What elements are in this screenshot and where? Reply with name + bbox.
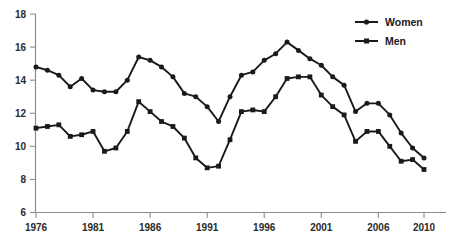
data-point <box>79 76 84 81</box>
data-point <box>319 63 324 68</box>
data-point <box>56 122 61 127</box>
data-point <box>79 132 84 137</box>
data-point <box>125 78 130 83</box>
data-point <box>159 64 164 69</box>
x-axis-tick-labels: 19761981198619911996200120062010 <box>25 222 436 233</box>
data-point <box>205 104 210 109</box>
x-tick-label: 2010 <box>413 222 436 233</box>
data-point <box>216 164 221 169</box>
data-point <box>193 94 198 99</box>
data-point <box>193 156 198 161</box>
x-tick-label: 1996 <box>253 222 276 233</box>
y-tick-label: 6 <box>20 207 26 218</box>
data-point <box>34 126 39 131</box>
y-tick-label: 12 <box>15 108 27 119</box>
y-axis-tick-labels: 681012141618 <box>15 9 27 219</box>
data-point <box>330 104 335 109</box>
chart-series-layer <box>34 40 427 172</box>
data-point <box>410 145 415 150</box>
data-point <box>376 129 381 134</box>
legend-label: Women <box>385 16 423 28</box>
data-point <box>410 157 415 162</box>
data-point <box>262 109 267 114</box>
data-point <box>228 137 233 142</box>
data-point <box>342 83 347 88</box>
legend-item-men: Men <box>355 35 406 47</box>
data-point <box>353 139 358 144</box>
legend-marker-square-icon <box>364 39 369 44</box>
data-point <box>45 124 50 129</box>
data-point <box>102 149 107 154</box>
data-point <box>136 99 141 104</box>
data-point <box>422 167 427 172</box>
y-axis-ticks <box>30 14 36 213</box>
data-point <box>91 129 96 134</box>
data-point <box>422 155 427 160</box>
data-point <box>239 73 244 78</box>
data-point <box>216 119 221 124</box>
data-point <box>296 74 301 79</box>
data-point <box>34 64 39 69</box>
data-point <box>273 94 278 99</box>
series-women <box>34 40 427 161</box>
data-point <box>205 165 210 170</box>
data-point <box>125 129 130 134</box>
x-tick-label: 2006 <box>367 222 390 233</box>
data-point <box>330 74 335 79</box>
x-tick-label: 1991 <box>196 222 219 233</box>
data-point <box>365 129 370 134</box>
x-tick-label: 1976 <box>25 222 48 233</box>
y-tick-label: 14 <box>15 75 27 86</box>
data-point <box>399 159 404 164</box>
data-point <box>68 134 73 139</box>
data-point <box>285 76 290 81</box>
data-point <box>45 68 50 73</box>
data-point <box>148 58 153 63</box>
y-tick-label: 18 <box>15 9 27 20</box>
data-point <box>250 108 255 113</box>
data-point <box>239 109 244 114</box>
data-point <box>56 73 61 78</box>
data-point <box>182 91 187 96</box>
data-point <box>113 89 118 94</box>
legend-marker-circle-icon <box>364 19 369 24</box>
data-point <box>342 113 347 118</box>
data-point <box>273 51 278 56</box>
data-point <box>387 112 392 117</box>
data-point <box>159 119 164 124</box>
line-chart: 681012141618 197619811986199119962001200… <box>0 0 460 242</box>
data-point <box>353 109 358 114</box>
y-tick-label: 16 <box>15 42 27 53</box>
data-point <box>228 94 233 99</box>
data-point <box>262 58 267 63</box>
data-point <box>319 93 324 98</box>
x-tick-label: 2001 <box>310 222 333 233</box>
data-point <box>307 74 312 79</box>
data-point <box>68 84 73 89</box>
x-axis-ticks <box>36 213 424 219</box>
x-tick-label: 1986 <box>139 222 162 233</box>
data-point <box>296 48 301 53</box>
data-point <box>376 101 381 106</box>
x-tick-label: 1981 <box>82 222 105 233</box>
legend-label: Men <box>385 35 406 47</box>
legend-item-women: Women <box>355 16 423 28</box>
data-point <box>387 144 392 149</box>
data-point <box>285 40 290 45</box>
data-point <box>91 88 96 93</box>
data-point <box>250 69 255 74</box>
data-point <box>307 56 312 61</box>
data-point <box>113 146 118 151</box>
data-point <box>182 136 187 141</box>
chart-canvas: 681012141618 197619811986199119962001200… <box>0 0 460 242</box>
chart-legend: WomenMen <box>355 16 423 47</box>
data-point <box>399 131 404 136</box>
data-point <box>364 101 369 106</box>
y-tick-label: 8 <box>20 174 26 185</box>
data-point <box>170 74 175 79</box>
y-tick-label: 10 <box>15 141 27 152</box>
data-point <box>102 89 107 94</box>
data-point <box>171 124 176 129</box>
data-point <box>148 109 153 114</box>
data-point <box>136 55 141 60</box>
